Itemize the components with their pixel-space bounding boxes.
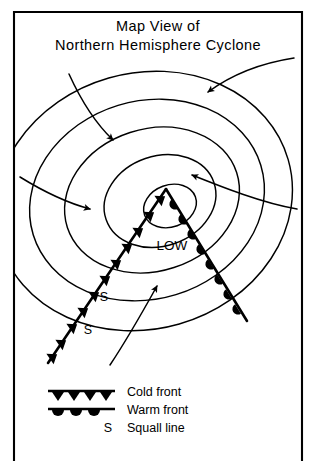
title-line-1: Map View of [116,18,200,34]
legend-label-squall-line: Squall line [127,421,185,435]
title-line-2: Northern Hemisphere Cyclone [55,37,261,53]
legend-label-cold-front: Cold front [127,385,182,399]
squall-line-symbol-icon: S [104,421,112,435]
low-center-label: LOW [157,238,188,253]
cyclone-map-figure: Map View of Northern Hemisphere Cyclone [0,0,315,461]
legend-label-warm-front: Warm front [127,403,189,417]
squall-marker-1: S [100,290,108,304]
cyclone-diagram-svg: Map View of Northern Hemisphere Cyclone [0,0,315,461]
squall-marker-2: S [84,323,92,337]
